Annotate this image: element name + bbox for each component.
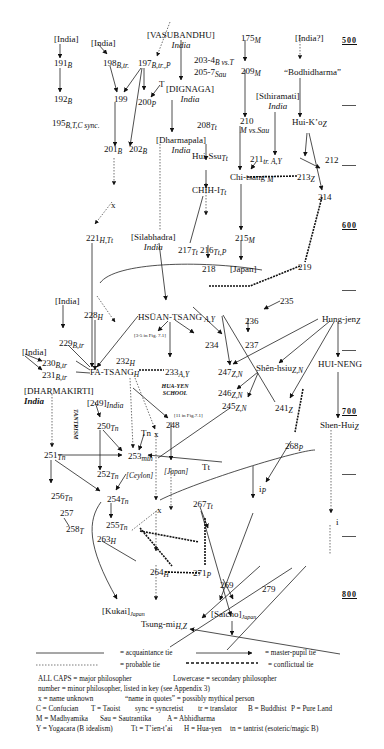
node-263: 263H <box>97 534 116 547</box>
node-india-5: [India] <box>22 347 47 357</box>
node-235: 235 <box>280 296 294 306</box>
node-205-7: 205-7Sau <box>194 67 226 80</box>
node-vasubandhu: [VASUBANDHU]India <box>147 30 215 50</box>
node-i-p: iP <box>259 484 266 497</box>
legend-abhidharma: A = Abhidharma <box>167 715 215 724</box>
node-252: 252Tn <box>97 469 118 482</box>
legend-translator: tr = translator <box>198 705 237 714</box>
node-264: 264H <box>150 567 169 580</box>
timeline-tick <box>342 165 356 166</box>
legend-confucian: C = Confucian <box>36 705 78 714</box>
node-221: 221H,Tt <box>86 233 113 246</box>
legend-probable: = probable tie <box>120 661 160 670</box>
legend-sync: sync = syncretist <box>135 705 183 714</box>
node-shen-hsiu: Shên-hsiuZ,N <box>256 363 303 376</box>
node-214: 214 <box>318 192 332 202</box>
node-175: 175M <box>241 33 261 46</box>
legend-buddhist: B = Buddhist <box>248 705 286 714</box>
timeline-tick <box>342 350 356 351</box>
node-215: 215M <box>235 233 255 246</box>
node-228: 228H <box>84 310 103 323</box>
label-tantrism: TANTRISM <box>73 409 79 439</box>
node-234: 234 <box>205 340 219 350</box>
legend-caps: ALL CAPS = major philosopher <box>38 675 132 684</box>
node-245: 245Z,N <box>222 401 247 414</box>
node-198: 198B,tr. <box>103 58 129 71</box>
node-japan-1: [Japan] <box>230 264 257 274</box>
node-x-1: x <box>111 200 116 210</box>
legend-yogacara: Y = Yogacara (B idealism) <box>36 725 113 734</box>
node-247: 247Z,N <box>218 367 243 380</box>
node-201: 201B <box>104 144 122 157</box>
node-ref-3-5: [3-5 in Fig. 7.1] <box>134 333 160 339</box>
node-208: 208Tt <box>197 120 217 133</box>
node-india-1: [India] <box>54 34 79 44</box>
node-209: 209M <box>241 66 261 79</box>
node-dignaga: [DIGNAGA]India <box>166 84 214 104</box>
legend-conflictual: = conflictual tie <box>268 661 314 670</box>
node-shen-hui: Shen-HuiZ <box>320 420 359 433</box>
philosopher-network-diagram: 500 600 700 800 [India] 191B 192B 195B,T… <box>0 0 384 749</box>
node-i: i <box>336 517 339 527</box>
legend-tantrist: tn = tantrist (esoteric/magic B) <box>230 725 318 734</box>
label-hua-yen-school: HUA-YEN SCHOOL <box>158 383 192 397</box>
node-233: 233A,Y <box>165 367 189 380</box>
node-219: 219 <box>298 262 312 272</box>
node-195: 195B,T,C sync. <box>52 118 100 131</box>
legend-madhyamika: M = Madhyamika <box>36 715 88 724</box>
node-chi-tsang: Chi-tsang M <box>230 172 274 185</box>
year-marker-600: 600 <box>342 221 357 230</box>
node-tsung-mi: Tsung-miH,Z <box>141 619 187 632</box>
legend-hua-yen: H = Hua-yen <box>184 725 222 734</box>
node-248: 248 <box>166 420 180 430</box>
node-257: 257 <box>60 508 74 518</box>
node-241: 241Z <box>275 403 293 416</box>
node-x-3: x <box>157 505 162 515</box>
node-india-2: [India] <box>91 38 116 48</box>
legend-number: number = minor philosopher, listed in ke… <box>38 685 210 694</box>
node-229: 229B,tr <box>59 338 84 351</box>
node-india-4: [India] <box>55 296 80 306</box>
node-tn: Tn <box>141 428 151 438</box>
node-202: 202B <box>129 144 147 157</box>
legend-pure-land: P = Pure Land <box>291 705 332 714</box>
node-200: 200P <box>138 97 156 110</box>
node-hsuan-tsang: HSÜAN-TSANG A,Y <box>138 312 215 325</box>
node-sthiramati: [Sthiramati]India <box>256 91 300 111</box>
node-216: 216Tt,P <box>200 245 226 258</box>
node-218: 218 <box>202 264 216 274</box>
node-chih-i: CHIH-ITt <box>192 185 226 198</box>
legend-x: x = name unknown <box>38 695 93 704</box>
legend-master-pupil: = master-pupil tie <box>265 649 316 658</box>
node-x-2: x <box>154 429 159 439</box>
timeline-tick <box>342 105 356 106</box>
node-269: 269 <box>220 580 234 590</box>
node-268: 268P <box>285 441 303 454</box>
node-192: 192B <box>54 94 72 107</box>
node-254: 254Tn <box>107 494 128 507</box>
node-267: 267Tt <box>193 499 213 512</box>
legend-acquaintance: = acquaintance tie <box>120 649 172 658</box>
timeline-tick <box>342 536 356 537</box>
node-japan-2: [Japan] <box>164 466 188 477</box>
node-213: 213Z <box>297 172 315 185</box>
node-250: 250Tn <box>97 421 118 434</box>
node-dharmakirti: [DHARMAKIRTI]India <box>24 386 93 406</box>
node-ceylon: [Ceylon] <box>126 470 153 481</box>
node-hui-ko: Hui-K’oZ <box>292 117 327 130</box>
node-231: 231B,tr <box>42 370 67 383</box>
node-271: 271P <box>193 568 211 581</box>
node-saicho: [Saicho]Japan <box>211 609 256 622</box>
node-fa-tsang: FA-TSANGH <box>90 367 139 380</box>
node-256: 256Tn <box>51 491 72 504</box>
legend-sautrantika: Sau = Sautrantika <box>100 715 151 724</box>
year-marker-700: 700 <box>342 407 357 416</box>
node-255: 255Tn <box>106 520 127 533</box>
node-ref-11: [11 in Fig.7.1] <box>174 413 203 419</box>
node-210: 210M vs.Sau <box>240 116 269 136</box>
year-marker-800: 800 <box>342 590 357 599</box>
node-hung-jen: Hung-jenZ <box>322 314 360 327</box>
node-279: 279 <box>262 584 276 594</box>
node-253: 253mth <box>128 451 153 464</box>
node-bodhidharma: “Bodhidharma” <box>284 67 341 77</box>
